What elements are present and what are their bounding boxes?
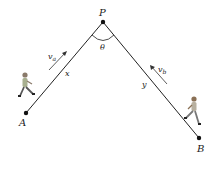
segment-pb: [103, 22, 199, 138]
label-p: P: [98, 7, 106, 18]
label-y: y: [141, 80, 147, 89]
segment-ap: [26, 22, 103, 113]
angle-arc: [92, 35, 114, 41]
walker-a-icon: [18, 72, 35, 97]
label-va: va: [48, 52, 57, 62]
label-a: A: [18, 117, 26, 128]
label-b: B: [196, 143, 204, 154]
label-x: x: [65, 69, 70, 78]
point-b: [197, 136, 201, 140]
label-theta: θ: [100, 43, 105, 52]
point-a: [24, 111, 28, 115]
point-p: [101, 20, 105, 24]
label-vb: vb: [158, 65, 167, 75]
walker-b-icon: [184, 96, 201, 125]
diagram-canvas: P A B θ x y va vb: [0, 0, 207, 172]
